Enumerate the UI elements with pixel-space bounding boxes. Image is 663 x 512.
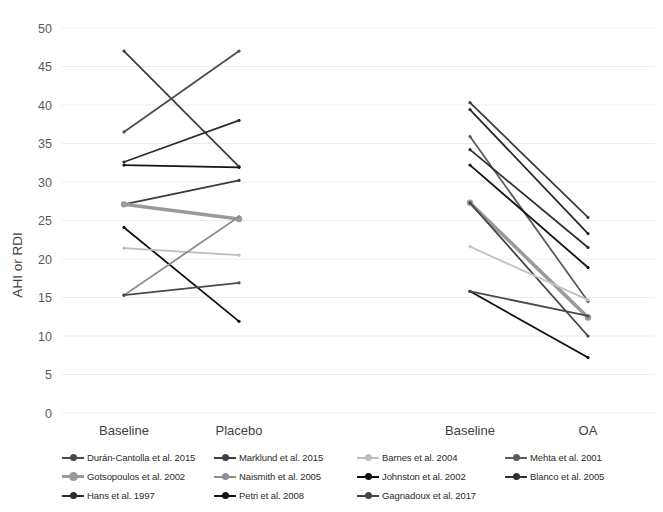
y-tick-label: 25 (38, 214, 52, 228)
legend-marker-icon (505, 472, 527, 482)
legend-item[interactable]: Johnston et al. 2002 (357, 467, 505, 486)
parallel-coordinates-plot: 05101520253035404550 AHI or RDI Baseline… (0, 0, 663, 512)
legend-marker-icon (357, 491, 379, 501)
legend-item-label: Gotsopoulos et al. 2002 (87, 471, 185, 482)
data-point (237, 166, 240, 169)
legend-item-label: Johnston et al. 2002 (382, 471, 466, 482)
legend-item[interactable]: Blanco et al. 2005 (505, 467, 655, 486)
legend-item-label: Marklund et al. 2015 (239, 452, 323, 463)
data-point (237, 254, 240, 257)
legend-marker-icon (214, 491, 236, 501)
data-point (468, 245, 471, 248)
data-point (237, 119, 240, 122)
y-tick-label: 45 (38, 60, 52, 74)
series-line (122, 50, 240, 134)
data-point (586, 314, 589, 317)
series-line (121, 201, 242, 222)
data-series-layer (121, 50, 591, 360)
data-point (121, 201, 127, 207)
data-point (468, 108, 471, 111)
y-tick-label: 50 (38, 22, 52, 36)
legend-marker-icon (357, 472, 379, 482)
data-point (468, 101, 471, 104)
y-tick-label: 15 (38, 291, 52, 305)
data-point (237, 179, 240, 182)
data-point (122, 50, 125, 53)
legend-item-label: Naismith et al. 2005 (239, 471, 321, 482)
legend-item[interactable]: Petri et al. 2008 (214, 486, 357, 505)
data-point (586, 232, 589, 235)
y-tick-label: 40 (38, 99, 52, 113)
legend-item-label: Mehta et al. 2001 (530, 452, 602, 463)
legend-item-label: Durán-Cantolla et al. 2015 (87, 452, 195, 463)
series-line (468, 201, 589, 337)
legend-item-label: Gagnadoux et al. 2017 (382, 490, 476, 501)
legend-item[interactable]: Mehta et al. 2001 (505, 448, 655, 467)
legend-item-label: Blanco et al. 2005 (530, 471, 604, 482)
data-point (468, 148, 471, 151)
x-tick-label: Placebo (216, 423, 263, 438)
legend-marker-icon (62, 453, 84, 463)
data-point (468, 135, 471, 138)
data-point (586, 298, 589, 301)
y-tick-label: 30 (38, 176, 52, 190)
legend-item[interactable]: Durán-Cantolla et al. 2015 (62, 448, 214, 467)
chart-container: 05101520253035404550 AHI or RDI Baseline… (0, 0, 663, 512)
data-point (122, 163, 125, 166)
data-point (468, 163, 471, 166)
y-tick-label: 20 (38, 253, 52, 267)
legend-item[interactable]: Marklund et al. 2015 (214, 448, 357, 467)
x-tick-label: Baseline (445, 423, 495, 438)
legend-item[interactable]: Hans et al. 1997 (62, 486, 214, 505)
legend-marker-icon (62, 472, 84, 482)
data-point (122, 160, 125, 163)
y-axis-tick-labels: 05101520253035404550 (38, 22, 52, 421)
legend-item-label: Barnes et al. 2004 (382, 452, 457, 463)
series-line (122, 226, 240, 323)
legend-item[interactable]: Gagnadoux et al. 2017 (357, 486, 505, 505)
data-point (586, 334, 589, 337)
data-point (122, 294, 125, 297)
data-point (468, 290, 471, 293)
legend-item[interactable]: Naismith et al. 2005 (214, 467, 357, 486)
data-point (237, 320, 240, 323)
legend-item[interactable]: Gotsopoulos et al. 2002 (62, 467, 214, 486)
data-point (237, 215, 240, 218)
legend-marker-icon (505, 453, 527, 463)
data-point (122, 247, 125, 250)
legend-item-label: Hans et al. 1997 (87, 490, 155, 501)
legend-marker-icon (214, 453, 236, 463)
series-line (122, 179, 240, 206)
legend-grid: Durán-Cantolla et al. 2015Marklund et al… (62, 448, 662, 505)
series-line (122, 50, 240, 169)
data-point (586, 356, 589, 359)
series-line (122, 163, 240, 169)
data-point (468, 201, 471, 204)
y-tick-label: 0 (45, 407, 52, 421)
y-tick-label: 5 (45, 368, 52, 382)
data-point (122, 130, 125, 133)
y-axis-title-text: AHI or RDI (10, 232, 25, 297)
data-point (586, 246, 589, 249)
legend-marker-icon (62, 491, 84, 501)
chart-legend: Durán-Cantolla et al. 2015Marklund et al… (0, 448, 663, 512)
data-point (237, 50, 240, 53)
y-tick-label: 35 (38, 137, 52, 151)
y-axis-title: AHI or RDI (10, 232, 25, 297)
x-tick-label: OA (579, 423, 598, 438)
x-axis-tick-labels: BaselinePlaceboBaselineOA (99, 423, 598, 438)
data-point (586, 216, 589, 219)
legend-marker-icon (214, 472, 236, 482)
data-point (122, 226, 125, 229)
x-tick-label: Baseline (99, 423, 149, 438)
gridlines-group (62, 28, 655, 413)
series-line (468, 148, 589, 249)
legend-item-label: Petri et al. 2008 (239, 490, 304, 501)
data-point (237, 281, 240, 284)
data-point (586, 266, 589, 269)
legend-marker-icon (357, 453, 379, 463)
legend-item[interactable]: Barnes et al. 2004 (357, 448, 505, 467)
y-tick-label: 10 (38, 330, 52, 344)
series-line (122, 119, 240, 164)
